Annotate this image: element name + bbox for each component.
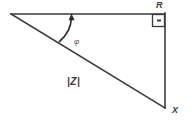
label-resistance: R <box>156 1 163 10</box>
label-reactance: X <box>172 106 178 115</box>
label-phase-angle: φ <box>74 38 79 46</box>
angle-arc <box>60 18 72 42</box>
impedance-line <box>11 14 165 108</box>
triangle-graphic <box>0 0 192 122</box>
impedance-triangle-diagram: R X |Z| φ <box>0 0 192 122</box>
right-angle-dot-icon <box>157 20 161 22</box>
label-impedance-magnitude: |Z| <box>67 77 80 87</box>
